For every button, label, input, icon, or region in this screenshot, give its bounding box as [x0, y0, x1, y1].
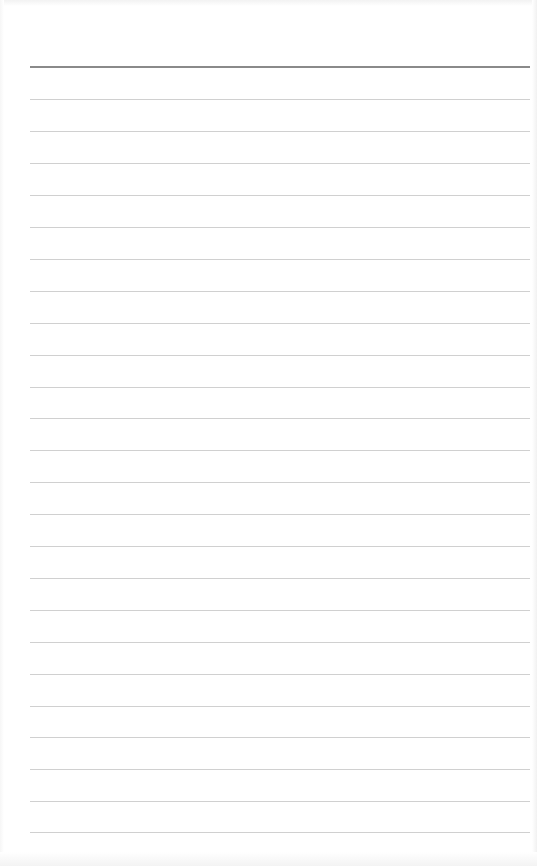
header-rule — [30, 66, 530, 68]
ruled-line — [30, 514, 530, 515]
paper-edge-left — [0, 0, 4, 866]
lined-paper-sheet — [0, 0, 537, 866]
ruled-line — [30, 227, 530, 228]
ruled-line — [30, 674, 530, 675]
ruled-line — [30, 323, 530, 324]
ruled-line — [30, 610, 530, 611]
ruled-line — [30, 387, 530, 388]
ruled-line — [30, 131, 530, 132]
ruled-line — [30, 259, 530, 260]
ruled-line — [30, 706, 530, 707]
ruled-line — [30, 355, 530, 356]
ruled-line — [30, 642, 530, 643]
ruled-line — [30, 482, 530, 483]
ruled-line — [30, 450, 530, 451]
ruled-line — [30, 578, 530, 579]
ruled-line — [30, 737, 530, 738]
ruled-line — [30, 195, 530, 196]
ruled-line — [30, 99, 530, 100]
ruled-line — [30, 832, 530, 833]
paper-edge-top — [0, 0, 537, 6]
paper-edge-right — [532, 0, 537, 866]
ruled-line — [30, 418, 530, 419]
paper-edge-bottom — [0, 852, 537, 866]
ruled-line — [30, 291, 530, 292]
ruled-line — [30, 546, 530, 547]
ruled-line — [30, 801, 530, 802]
ruled-line — [30, 163, 530, 164]
ruled-line — [30, 769, 530, 770]
